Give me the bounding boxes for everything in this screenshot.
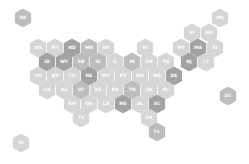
state-label: IL — [113, 60, 118, 65]
state-hex-ak[interactable]: AK — [15, 9, 32, 28]
state-label: WV — [136, 74, 144, 79]
state-label: MO — [102, 74, 110, 79]
hex-map: AKMEVTNHWAMTNDMNWIMINYMARIIDWYSDIAILINOH… — [0, 0, 249, 164]
state-label: ID — [44, 60, 49, 65]
state-label: AR — [112, 88, 119, 93]
state-label: GA — [145, 116, 152, 121]
state-label: WA — [34, 46, 42, 51]
state-label: VA — [146, 88, 153, 93]
state-label: LA — [103, 102, 109, 107]
state-label: RI — [212, 46, 217, 51]
state-label: FL — [154, 130, 160, 135]
state-label: MT — [51, 46, 59, 51]
state-label: VT — [189, 31, 196, 36]
state-label: KY — [120, 74, 127, 79]
state-label: CA — [44, 88, 51, 93]
state-label: NY — [177, 46, 184, 51]
state-label: TN — [129, 88, 136, 93]
state-label: ND — [68, 46, 76, 51]
state-label: AZ — [61, 88, 68, 93]
state-label: OR — [34, 74, 41, 79]
state-label: WY — [60, 60, 68, 65]
state-label: AK — [20, 16, 27, 21]
state-label: IA — [95, 60, 100, 65]
state-hex-dc[interactable]: DC — [220, 87, 237, 106]
state-label: PA — [163, 60, 169, 65]
state-label: DE — [171, 74, 178, 79]
state-label: SD — [78, 60, 85, 65]
state-label: HI — [18, 141, 23, 146]
state-label: DC — [224, 94, 231, 99]
state-label: AL — [137, 102, 143, 107]
state-label: MN — [85, 46, 93, 51]
state-hex-me[interactable]: ME — [212, 9, 229, 28]
state-label: NE — [86, 74, 93, 79]
state-label: KS — [95, 88, 102, 93]
state-label: MD — [153, 74, 161, 79]
state-label: IN — [129, 60, 134, 65]
state-label: OH — [145, 60, 153, 65]
state-label: MI — [142, 46, 148, 51]
state-label: OK — [85, 102, 92, 107]
state-label: ME — [216, 16, 224, 21]
state-label: CT — [203, 60, 209, 65]
state-label: NV — [51, 74, 58, 79]
state-label: MA — [194, 46, 202, 51]
state-hex-hi[interactable]: HI — [13, 134, 30, 153]
state-label: NM — [68, 102, 76, 107]
state-label: NC — [162, 88, 169, 93]
state-label: MS — [119, 102, 127, 107]
state-label: TX — [78, 116, 85, 121]
state-label: NH — [205, 31, 213, 36]
state-label: UT — [78, 88, 85, 93]
state-label: WI — [103, 46, 110, 51]
state-label: SC — [154, 102, 161, 107]
state-label: NJ — [186, 60, 191, 65]
state-label: CO — [68, 74, 75, 79]
